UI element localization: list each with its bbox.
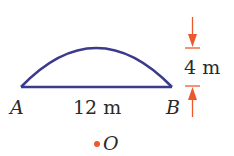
arc-height-label: 4 m xyxy=(184,58,220,77)
center-point-dot xyxy=(94,141,100,147)
arc xyxy=(21,48,172,87)
arrow-down-icon xyxy=(188,34,197,47)
arrow-up-icon xyxy=(188,87,197,100)
point-b-label: B xyxy=(166,98,180,117)
point-o-label: O xyxy=(103,134,119,153)
chord-length-label: 12 m xyxy=(73,98,121,117)
point-a-label: A xyxy=(10,98,24,117)
arc-segment-diagram: A 12 m B 4 m O xyxy=(0,0,234,156)
